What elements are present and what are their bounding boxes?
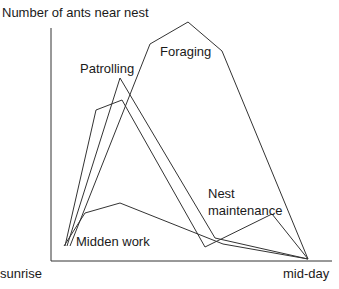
label-midden-work: Midden work [76,234,150,249]
y-axis-label: Number of ants near nest [2,5,149,20]
x-tick-midday: mid-day [283,266,329,281]
x-tick-sunrise: sunrise [0,266,42,281]
label-nest-maintenance-1: Nest [208,186,235,201]
label-patrolling: Patrolling [80,61,134,76]
label-foraging: Foraging [160,44,211,59]
label-nest-maintenance-2: maintenance [208,203,282,218]
series-patrolling [67,78,308,259]
